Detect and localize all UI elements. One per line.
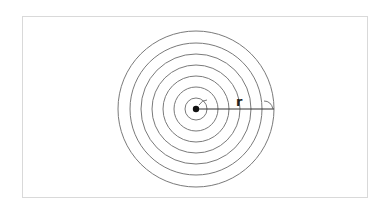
angle-arc-edge bbox=[264, 101, 273, 109]
concentric-circles-diagram: r bbox=[0, 0, 392, 211]
radius-label: r bbox=[236, 94, 243, 109]
center-point bbox=[193, 106, 199, 112]
